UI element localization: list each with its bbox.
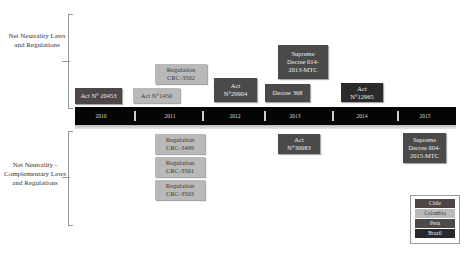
legend-item-chile: Chile (415, 199, 455, 208)
bottom-group-label: Net Neutrality - Complementary Laws and … (2, 161, 68, 188)
timeline-bar (75, 107, 456, 125)
item-supreme-decree-004-2015: Supreme Decree 004-2015-MTC (403, 133, 446, 163)
top-group-label: Net Neutrality Laws and Regulations (6, 32, 68, 50)
legend-item-brazil: Brazil (415, 229, 455, 238)
legend: Chile Colombia Peru Brazil (410, 195, 460, 244)
item-regulation-crc-3499: Regulation CRC-3499 (155, 134, 205, 154)
bottom-bracket-tick (62, 177, 70, 178)
item-supreme-decree-014-2013: Supreme Decree 014-2013-MTC (278, 45, 328, 79)
item-act-12965: Act N°12965 (341, 83, 383, 102)
top-bracket-tick (62, 61, 70, 62)
year-2014: 2014 (347, 113, 377, 119)
year-separator (202, 111, 204, 121)
item-act-20453: Act N° 20453 (75, 88, 122, 104)
legend-item-colombia: Colombia (415, 209, 455, 218)
legend-item-peru: Peru (415, 219, 455, 228)
year-separator (264, 111, 266, 121)
year-separator (332, 111, 334, 121)
year-2015: 2015 (410, 113, 440, 119)
item-act-1450: Act N°1450 (133, 88, 180, 103)
year-2013: 2013 (280, 113, 310, 119)
year-separator (397, 111, 399, 121)
year-separator (134, 111, 136, 121)
item-decree-368: Decree 368 (265, 84, 310, 102)
bottom-group-bracket (68, 131, 73, 226)
item-regulation-crc-3502: Regulation CRC-3502 (155, 64, 207, 84)
item-regulation-crc-3501: Regulation CRC-3501 (155, 157, 205, 177)
year-2012: 2012 (220, 113, 250, 119)
item-regulation-crc-3503: Regulation CRC-3503 (155, 180, 205, 200)
timeline-shadow (75, 125, 456, 129)
item-act-29904: Act N°29904 (214, 78, 257, 102)
year-2010: 2010 (86, 113, 116, 119)
year-2011: 2011 (155, 113, 185, 119)
item-act-30083: Act N°30083 (278, 134, 320, 154)
